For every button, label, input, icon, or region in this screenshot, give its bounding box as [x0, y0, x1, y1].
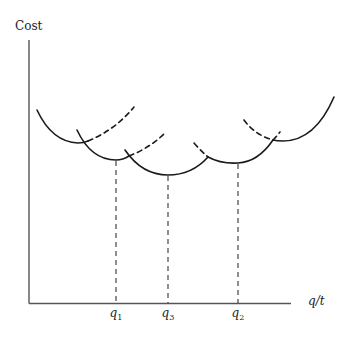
x-axis-label: q/t — [308, 294, 325, 308]
tick-q1-sub: 1 — [117, 313, 122, 322]
tick-q2-sub: 2 — [239, 313, 244, 322]
cost-curve-2-dashed — [129, 132, 166, 156]
y-axis-label: Cost — [15, 19, 42, 33]
cost-curve-1-dashed — [88, 107, 134, 141]
tick-q3-base: q — [162, 306, 170, 320]
cost-curves-diagram — [0, 0, 351, 338]
tick-q2-base: q — [232, 306, 240, 320]
tick-q1: q1 — [110, 306, 123, 322]
tick-q2: q2 — [232, 306, 245, 322]
cost-curve-5-dashed — [244, 120, 273, 140]
cost-curve-4-dashed-left — [194, 143, 208, 157]
cost-curve-3-solid — [125, 150, 208, 175]
cost-curve-2-solid — [77, 130, 129, 160]
cost-curve-4-solid — [208, 140, 273, 163]
cost-curve-4-dashed-right — [273, 132, 280, 140]
tick-q3-sub: 3 — [169, 313, 174, 322]
cost-curve-5-solid — [273, 97, 334, 141]
tick-q3: q3 — [162, 306, 175, 322]
tick-q1-base: q — [110, 306, 118, 320]
